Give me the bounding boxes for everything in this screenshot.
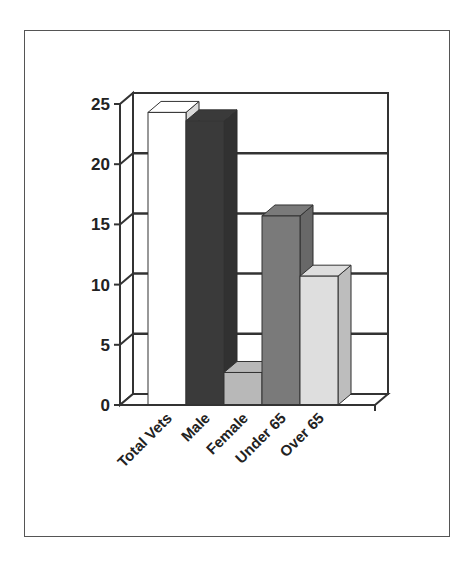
y-tick-label: 20 xyxy=(91,155,110,174)
y-tick-label: 0 xyxy=(101,396,110,415)
y-tick-label: 10 xyxy=(91,276,110,295)
y-tick-label: 15 xyxy=(91,215,110,234)
x-tick-label: Total Vets xyxy=(114,409,175,470)
bar-chart: 0510152025Total VetsMaleFemaleUnder 65Ov… xyxy=(0,0,473,563)
y-tick-label: 5 xyxy=(101,336,110,355)
y-tick-label: 25 xyxy=(91,95,110,114)
bar-male xyxy=(186,110,237,405)
bar-over-65 xyxy=(300,265,351,405)
x-axis-labels: Total VetsMaleFemaleUnder 65Over 65 xyxy=(114,409,327,470)
